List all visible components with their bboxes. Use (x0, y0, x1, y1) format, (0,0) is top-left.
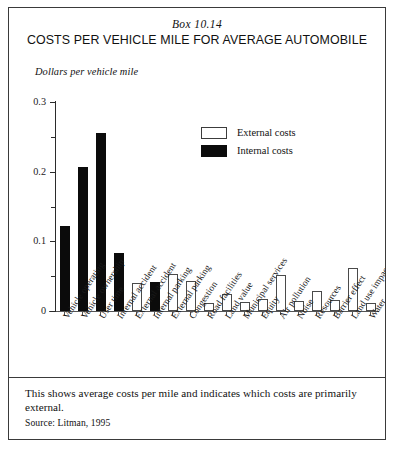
footer-divider (9, 377, 385, 378)
y-tick-label: 0.3 (14, 96, 46, 107)
bar-vehicle-operating (60, 226, 70, 311)
y-tick-label: 0 (14, 305, 46, 316)
box-frame: Box 10.14 COSTS PER VEHICLE MILE FOR AVE… (8, 7, 386, 440)
y-tick-label: 0.2 (14, 166, 46, 177)
footer-note: This shows average costs per mile and in… (25, 387, 373, 414)
legend-item-external: External costs (201, 125, 296, 140)
page-title: COSTS PER VEHICLE MILE FOR AVERAGE AUTOM… (9, 32, 385, 48)
chart: Dollars per vehicle mile 00.10.20.3 Vehi… (9, 60, 386, 380)
legend: External costs Internal costs (201, 125, 296, 161)
legend-swatch-internal (201, 145, 227, 157)
legend-label-external: External costs (237, 127, 296, 138)
legend-label-internal: Internal costs (237, 145, 293, 156)
footer-source: Source: Litman, 1995 (25, 417, 373, 428)
legend-swatch-external (201, 127, 227, 139)
y-tick-major (50, 311, 56, 312)
footer: This shows average costs per mile and in… (25, 387, 373, 428)
y-tick-label: 0.1 (14, 235, 46, 246)
y-axis-label: Dollars per vehicle mile (35, 66, 138, 77)
legend-item-internal: Internal costs (201, 143, 296, 158)
box-number: Box 10.14 (9, 17, 385, 31)
header: Box 10.14 COSTS PER VEHICLE MILE FOR AVE… (9, 17, 385, 48)
